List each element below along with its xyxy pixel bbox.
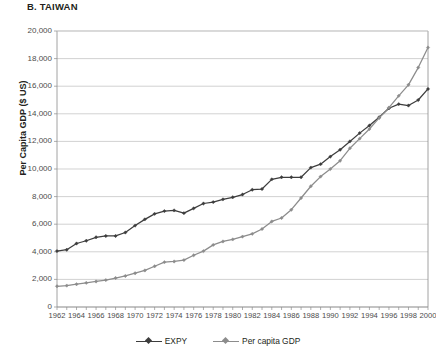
x-tick-label: 1964 — [68, 311, 85, 320]
data-point — [172, 260, 175, 263]
data-point — [104, 278, 107, 281]
x-tick-label: 1984 — [263, 311, 280, 320]
legend-label-per-capita-gdp: Per capita GDP — [242, 336, 300, 346]
chart-container: B. TAIWAN Per Capita GDP ($ US) 02,0004,… — [0, 0, 436, 361]
x-tick-label: 1966 — [88, 311, 105, 320]
x-tick-label: 1962 — [49, 311, 66, 320]
x-tick-label: 1990 — [322, 311, 339, 320]
data-point — [143, 269, 146, 272]
data-point — [163, 260, 166, 263]
data-point — [124, 274, 127, 277]
data-point — [397, 102, 400, 105]
data-point — [290, 176, 293, 179]
data-point — [231, 238, 234, 241]
chart-legend: EXPY Per capita GDP — [0, 336, 436, 346]
x-tick-label: 1994 — [361, 311, 378, 320]
series-line-expy — [57, 89, 428, 251]
data-point — [280, 176, 283, 179]
data-point — [212, 200, 215, 203]
legend-item-per-capita-gdp: Per capita GDP — [213, 336, 300, 346]
series-line-per-capita-gdp — [57, 48, 428, 287]
x-tick-label: 1996 — [380, 311, 397, 320]
x-tick-label: 1982 — [244, 311, 261, 320]
x-tick-label: 2000 — [420, 311, 436, 320]
data-point — [94, 280, 97, 283]
data-point — [85, 239, 88, 242]
data-point — [75, 283, 78, 286]
x-tick-label: 1976 — [185, 311, 202, 320]
data-point — [231, 196, 234, 199]
data-point — [94, 236, 97, 239]
legend-label-expy: EXPY — [165, 336, 187, 346]
data-point — [55, 285, 58, 288]
data-point — [153, 265, 156, 268]
x-tick-label: 1968 — [107, 311, 124, 320]
x-tick-label: 1992 — [341, 311, 358, 320]
x-tick-label: 1980 — [224, 311, 241, 320]
x-tick-label: 1970 — [127, 311, 144, 320]
x-tick-label: 1978 — [205, 311, 222, 320]
data-point — [241, 235, 244, 238]
data-point — [221, 198, 224, 201]
data-point — [114, 234, 117, 237]
legend-marker-expy — [136, 337, 162, 346]
data-point — [104, 234, 107, 237]
legend-marker-per-capita-gdp — [213, 337, 239, 346]
x-tick-label: 1972 — [146, 311, 163, 320]
data-point — [221, 240, 224, 243]
x-tick-label: 1988 — [302, 311, 319, 320]
data-point — [85, 281, 88, 284]
data-point — [65, 284, 68, 287]
legend-item-expy: EXPY — [136, 336, 187, 346]
data-point — [55, 249, 58, 252]
plot-area — [0, 0, 436, 361]
x-tick-label: 1974 — [166, 311, 183, 320]
x-tick-label: 1986 — [283, 311, 300, 320]
data-point — [133, 271, 136, 274]
x-tick-label: 1998 — [400, 311, 417, 320]
data-point — [163, 209, 166, 212]
data-point — [172, 209, 175, 212]
